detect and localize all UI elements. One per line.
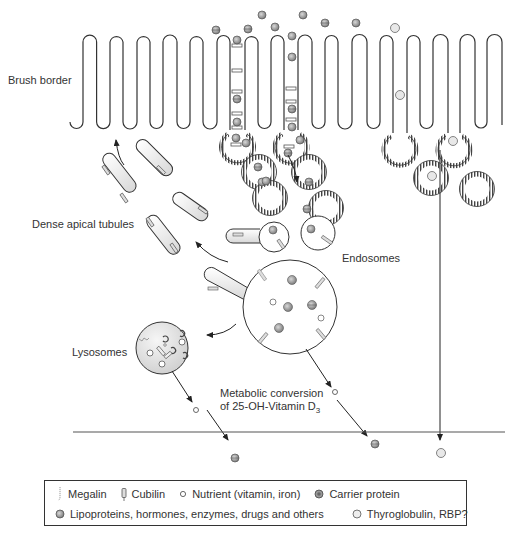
legend-item-nutrient: Nutrient (vitamin, iron) bbox=[179, 488, 300, 500]
label-metabolic-line1: Metabolic conversion bbox=[220, 387, 323, 400]
legend: Megalin Cubilin Nutrient (vitamin, iron)… bbox=[44, 480, 467, 526]
carrier-protein-icon bbox=[314, 489, 324, 499]
label-dense-apical-tubules: Dense apical tubules bbox=[32, 218, 134, 231]
legend-item-lipoproteins: Lipoproteins, hormones, enzymes, drugs a… bbox=[55, 508, 324, 520]
dense-apical-tubules bbox=[100, 137, 210, 257]
legend-item-cubilin: Cubilin bbox=[121, 488, 166, 501]
legend-label-nutrient: Nutrient (vitamin, iron) bbox=[192, 488, 300, 500]
nutrient-icon bbox=[179, 490, 187, 498]
label-metabolic-conversion: Metabolic conversion of 25-OH-Vitamin D3 bbox=[220, 387, 323, 417]
label-lysosomes: Lysosomes bbox=[72, 346, 127, 359]
label-metabolic-subscript: 3 bbox=[316, 406, 320, 415]
legend-row-1: Megalin Cubilin Nutrient (vitamin, iron)… bbox=[57, 487, 414, 501]
label-endosomes: Endosomes bbox=[342, 252, 400, 265]
thyroglobulin-icon bbox=[352, 509, 362, 519]
legend-item-thyroglobulin: Thyroglobulin, RBP? bbox=[352, 508, 468, 520]
legend-label-carrier-protein: Carrier protein bbox=[329, 488, 399, 500]
legend-item-megalin: Megalin bbox=[57, 487, 107, 501]
legend-item-carrier-protein: Carrier protein bbox=[314, 488, 399, 500]
label-brush-border: Brush border bbox=[8, 74, 72, 87]
cubilin-icon bbox=[121, 488, 127, 501]
legend-row-2: Lipoproteins, hormones, enzymes, drugs a… bbox=[55, 508, 482, 520]
megalin-icon bbox=[57, 487, 63, 501]
legend-label-cubilin: Cubilin bbox=[132, 488, 166, 500]
lipoprotein-icon bbox=[55, 509, 65, 519]
legend-label-megalin: Megalin bbox=[68, 488, 107, 500]
label-metabolic-line2: of 25-OH-Vitamin D3 bbox=[220, 400, 323, 417]
legend-label-thyroglobulin: Thyroglobulin, RBP? bbox=[367, 508, 468, 520]
legend-label-lipoproteins: Lipoproteins, hormones, enzymes, drugs a… bbox=[70, 508, 324, 520]
receptors-in-tubes bbox=[231, 44, 296, 148]
label-metabolic-prefix: of 25-OH-Vitamin D bbox=[220, 400, 316, 412]
lysosome bbox=[136, 322, 188, 374]
endocytosis-diagram bbox=[0, 0, 515, 537]
